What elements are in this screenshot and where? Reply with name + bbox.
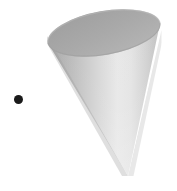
cone-figure-svg: [0, 0, 177, 191]
figure-canvas: [0, 0, 177, 191]
marker-point: [14, 95, 23, 104]
cone-shape: [43, 1, 165, 176]
